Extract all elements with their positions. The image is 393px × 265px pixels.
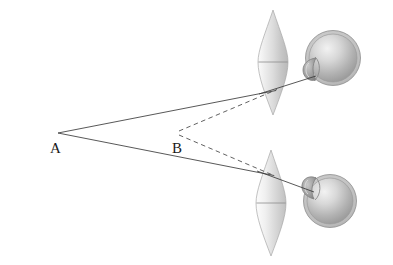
lower-lens (256, 150, 286, 256)
ray-a-to-lower-lens (58, 133, 274, 176)
point-b-label: B (172, 140, 182, 156)
upper-lens (258, 10, 288, 115)
lower-eyeball (307, 178, 353, 224)
ray-diagram-svg: A B (0, 0, 393, 265)
point-a-label: A (50, 140, 61, 156)
ray-b-to-lower-lens-virtual (179, 135, 275, 176)
ray-a-to-upper-lens (58, 91, 276, 134)
upper-lens-body (258, 10, 288, 115)
lower-eye (302, 175, 357, 228)
ray-b-to-upper-lens-virtual (179, 90, 277, 132)
optics-diagram-canvas: A B (0, 0, 393, 265)
